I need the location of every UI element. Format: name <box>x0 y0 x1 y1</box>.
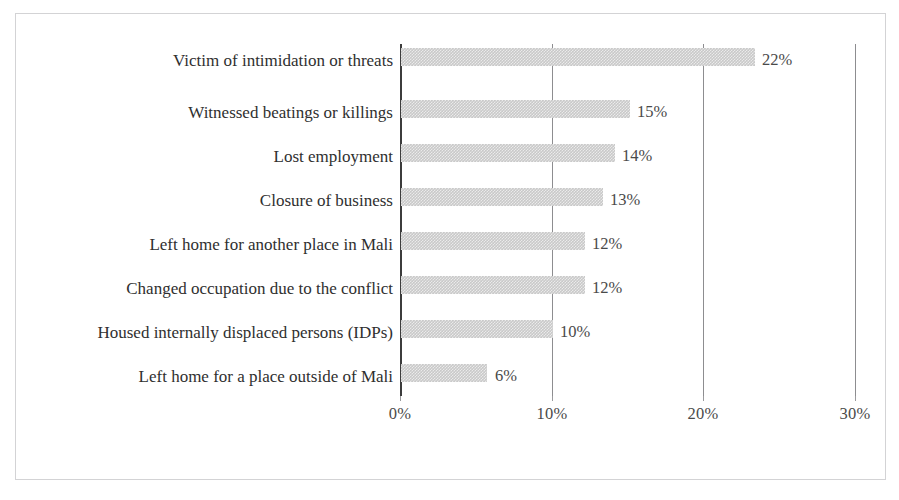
bar-value-label-2: 14% <box>622 147 652 165</box>
category-label-7: Left home for a place outside of Mali <box>0 367 393 387</box>
bar-value-label-3: 13% <box>610 191 640 209</box>
x-axis-tick-label-30: 30% <box>810 404 899 424</box>
bar-1 <box>401 100 630 118</box>
tick-mark-0 <box>400 396 401 401</box>
category-label-3: Closure of business <box>0 191 393 211</box>
gridline-20 <box>703 44 704 396</box>
gridline-10 <box>552 44 553 396</box>
bar-value-label-5: 12% <box>592 279 622 297</box>
bar-6 <box>401 320 553 338</box>
category-label-5: Changed occupation due to the conflict <box>0 279 393 299</box>
bar-5 <box>401 276 585 294</box>
category-label-6: Housed internally displaced persons (IDP… <box>0 323 393 343</box>
bar-chart-figure: 0% 10% 20% 30% Victim of intimidation or… <box>0 0 899 500</box>
gridline-30 <box>855 44 856 396</box>
bar-0 <box>401 48 755 66</box>
tick-mark-10 <box>552 396 553 401</box>
axis-line-zero <box>400 44 402 396</box>
bar-4 <box>401 232 585 250</box>
category-label-2: Lost employment <box>0 147 393 167</box>
tick-mark-20 <box>703 396 704 401</box>
tick-mark-30 <box>855 396 856 401</box>
category-label-4: Left home for another place in Mali <box>0 235 393 255</box>
bar-value-label-7: 6% <box>495 367 517 385</box>
bar-value-label-4: 12% <box>592 235 622 253</box>
bar-7 <box>401 364 487 382</box>
plot-area: 0% 10% 20% 30% Victim of intimidation or… <box>0 0 899 500</box>
category-label-1: Witnessed beatings or killings <box>0 103 393 123</box>
bar-value-label-1: 15% <box>637 103 667 121</box>
bar-3 <box>401 188 603 206</box>
x-axis-tick-label-20: 20% <box>658 404 748 424</box>
category-label-0: Victim of intimidation or threats <box>0 51 393 71</box>
bar-2 <box>401 144 615 162</box>
bar-value-label-0: 22% <box>762 51 792 69</box>
x-axis-tick-label-0: 0% <box>355 404 445 424</box>
bar-value-label-6: 10% <box>560 323 590 341</box>
x-axis-tick-label-10: 10% <box>507 404 597 424</box>
